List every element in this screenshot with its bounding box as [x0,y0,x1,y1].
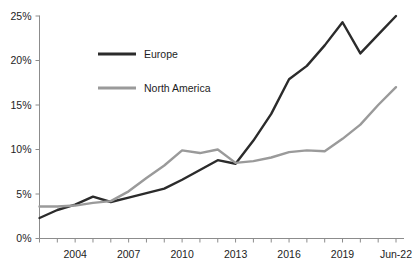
x-axis-tick-label: 2019 [331,248,355,260]
x-axis-tick-label: 2016 [277,248,301,260]
y-axis-tick-label: 25% [10,10,31,22]
line-chart: 0%5%10%15%20%25% 20042007201020132016201… [0,0,419,275]
x-axis-tick-label: 2004 [63,248,87,260]
y-axis-tick-label: 20% [10,54,31,66]
x-axis-tick-label: Jun-22 [380,248,412,260]
x-axis-tick-label: 2007 [117,248,141,260]
y-axis-tick-label: 15% [10,99,31,111]
x-axis-tick-label: 2013 [224,248,248,260]
chart-background [0,0,419,275]
legend-label-north-america: North America [144,82,211,94]
chart-canvas: 0%5%10%15%20%25% 20042007201020132016201… [0,0,419,275]
x-axis-tick-label: 2010 [170,248,194,260]
y-axis-tick-label: 10% [10,143,31,155]
y-axis-tick-label: 0% [16,232,31,244]
y-axis-tick-label: 5% [16,188,31,200]
legend-label-europe: Europe [144,48,178,60]
